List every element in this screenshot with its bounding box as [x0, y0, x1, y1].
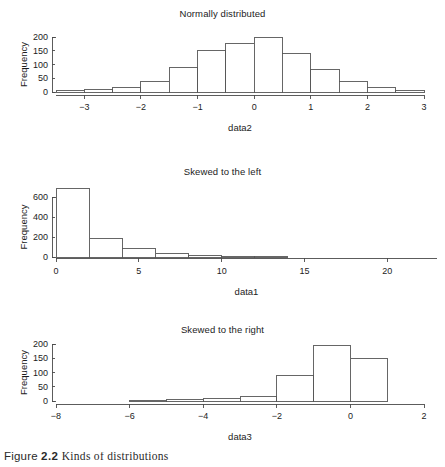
- x-tick-label: 5: [136, 266, 141, 276]
- histogram-bar: [89, 238, 122, 257]
- figure-caption: Figure 2.2 Kinds of distributions: [0, 452, 445, 467]
- x-axis-title: data1: [235, 286, 259, 297]
- y-tick-label: 200: [33, 232, 48, 242]
- histogram-bar: [240, 396, 277, 401]
- y-axis-title: Frequency: [18, 350, 29, 395]
- x-axis-title: data2: [228, 122, 252, 133]
- histogram-bar: [203, 398, 240, 401]
- x-tick-label: 3: [421, 102, 426, 112]
- y-tick-label: 50: [38, 73, 48, 83]
- x-tick-label: 2: [365, 102, 370, 112]
- histogram-plot-area: 050100150200Frequency−8−6−4−202data3: [0, 316, 445, 446]
- histogram-bar: [311, 69, 339, 92]
- x-tick-label: −8: [51, 411, 61, 421]
- histogram-bar: [84, 89, 112, 92]
- histogram-bar: [314, 345, 351, 401]
- y-tick-label: 100: [33, 60, 48, 70]
- y-axis-line: [52, 197, 56, 257]
- histogram-bar: [130, 400, 167, 401]
- x-tick-label: −2: [136, 102, 146, 112]
- y-axis-title: Frequency: [18, 42, 29, 87]
- histogram-bar: [155, 253, 188, 257]
- histogram-panel-normally-distributed: Normally distributed 050100150200Frequen…: [0, 0, 445, 158]
- x-tick-label: 0: [252, 102, 257, 112]
- x-tick-label: 20: [382, 266, 392, 276]
- x-tick-label: 15: [299, 266, 309, 276]
- x-tick-label: −3: [79, 102, 89, 112]
- caption-number: 2.2: [41, 452, 59, 462]
- y-tick-label: 200: [33, 32, 48, 42]
- x-tick-label: −1: [192, 102, 202, 112]
- histogram-bar: [350, 358, 387, 401]
- y-tick-label: 0: [43, 252, 48, 262]
- histogram-bar: [255, 256, 288, 257]
- y-axis-title: Frequency: [18, 204, 29, 249]
- y-tick-label: 150: [33, 353, 48, 363]
- histogram-bar: [222, 256, 255, 257]
- histogram-bar: [141, 81, 169, 92]
- histogram-bar: [113, 87, 141, 92]
- caption-text: Kinds of distributions: [62, 452, 169, 462]
- y-tick-label: 150: [33, 46, 48, 56]
- x-axis-title: data3: [228, 431, 252, 442]
- caption-label: Figure: [4, 452, 38, 462]
- x-tick-label: 0: [348, 411, 353, 421]
- histogram-plot-area: 0200400600Frequency05101520data1: [0, 158, 445, 316]
- histogram-bar: [166, 400, 203, 401]
- histogram-panel-skewed-to-the-left: Skewed to the left 0200400600Frequency05…: [0, 158, 445, 316]
- histogram-bar: [56, 91, 84, 92]
- histogram-bar: [169, 68, 197, 92]
- y-tick-label: 0: [43, 87, 48, 97]
- histogram-bar: [198, 50, 226, 92]
- x-tick-label: −4: [198, 411, 208, 421]
- x-tick-label: −2: [272, 411, 282, 421]
- y-tick-label: 400: [33, 212, 48, 222]
- histogram-plot-area: 050100150200Frequency−3−2−10123data2: [0, 0, 445, 158]
- y-tick-label: 100: [33, 368, 48, 378]
- histogram-bar: [339, 82, 367, 92]
- y-tick-label: 600: [33, 192, 48, 202]
- histogram-panel-skewed-to-the-right: Skewed to the right 050100150200Frequenc…: [0, 316, 445, 446]
- y-tick-label: 50: [38, 382, 48, 392]
- histogram-bar: [226, 43, 254, 92]
- x-tick-label: 0: [53, 266, 58, 276]
- y-tick-label: 200: [33, 339, 48, 349]
- y-tick-label: 0: [43, 396, 48, 406]
- x-tick-label: 1: [308, 102, 313, 112]
- figure-kinds-of-distributions: Normally distributed 050100150200Frequen…: [0, 0, 445, 467]
- histogram-bar: [56, 188, 89, 257]
- histogram-bar: [189, 256, 222, 258]
- histogram-bar: [282, 54, 310, 93]
- histogram-bar: [277, 376, 314, 401]
- histogram-bar: [122, 249, 155, 258]
- x-tick-label: 10: [217, 266, 227, 276]
- histogram-bar: [254, 37, 282, 92]
- x-tick-label: −6: [124, 411, 134, 421]
- histogram-bar: [367, 88, 395, 92]
- histogram-bar: [396, 91, 424, 92]
- x-tick-label: 2: [421, 411, 426, 421]
